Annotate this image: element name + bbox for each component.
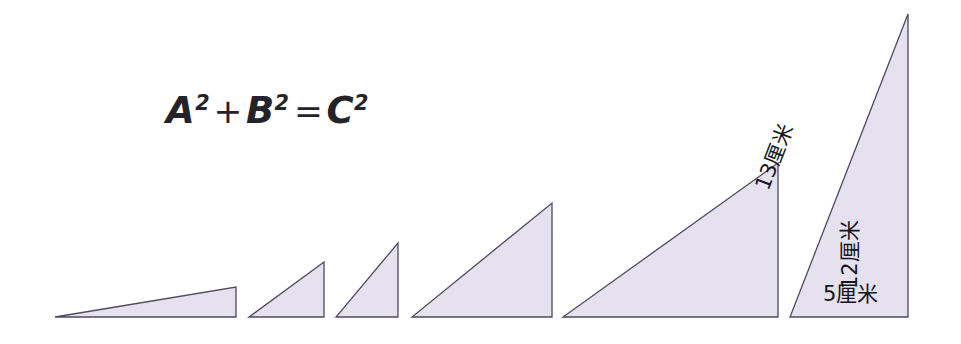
triangles-canvas (0, 0, 961, 344)
triangle-3 (336, 243, 398, 317)
triangle-6-labeled (790, 14, 908, 317)
triangle-4 (412, 203, 552, 317)
figure-root: A2+B2=C2 13厘米 12厘米 5厘米 (0, 0, 961, 344)
triangle-2 (249, 262, 324, 317)
triangle-5 (563, 163, 778, 317)
triangle-1 (55, 287, 236, 317)
